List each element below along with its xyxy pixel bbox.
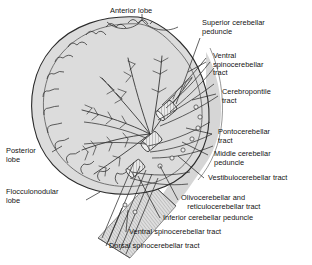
label-ventral-spinocerebellar-tract-bottom: Ventral spinocerebellar tract [129, 228, 221, 237]
label-vestibulocerebellar-tract: Vestibulocerebellar tract [208, 174, 287, 183]
label-cerebropontile-tract: Cerebropontile tract [222, 88, 271, 105]
label-dorsal-spinocerebellar-tract: Dorsal spinocerebellar tract [109, 242, 200, 251]
label-posterior-lobe: Posterior lobe [6, 147, 36, 164]
label-middle-cerebellar-peduncle: Middle cerebellar peduncle [214, 150, 271, 167]
label-inferior-cerebellar-peduncle: Inferior cerebellar peduncle [163, 214, 253, 223]
figure-canvas: Anterior lobe Superior cerebellar pedunc… [0, 0, 312, 265]
label-ventral-spinocerebellar-tract-right: Ventral spinocerebellar tract [213, 52, 263, 78]
label-superior-cerebellar-peduncle: Superior cerebellar peduncle [202, 19, 265, 36]
label-pontocerebellar-tract: Pontocerebellar tract [218, 128, 270, 145]
label-olivocerebellar-reticulocerebellar-tract: Olivocerebellar and reticulocerebellar t… [181, 194, 260, 211]
label-anterior-lobe: Anterior lobe [110, 7, 152, 16]
label-flocculonodular-lobe: Flocculonodular lobe [6, 188, 58, 205]
